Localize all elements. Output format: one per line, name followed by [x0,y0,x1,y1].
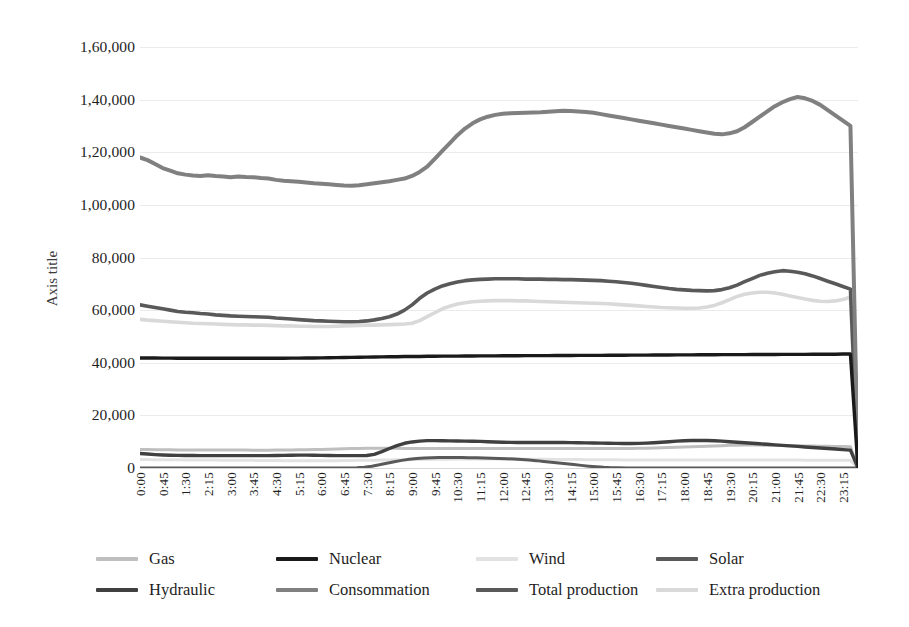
x-axis-tick-label: 18:00 [677,472,693,503]
x-axis-tick-label: 3:00 [224,472,240,496]
legend-swatch-icon [476,588,518,592]
legend-item-consommation[interactable]: Consommation [276,580,476,600]
x-axis-tick-label: 10:30 [450,472,466,503]
y-axis-tick-label: 1,40,000 [5,91,135,109]
x-axis-tick-label: 6:00 [314,472,330,496]
legend-item-gas[interactable]: Gas [96,549,276,569]
y-axis-tick-label: 80,000 [5,249,135,267]
y-axis-tick-label: 1,60,000 [5,38,135,56]
x-axis-tick-labels: 0:000:451:302:153:003:454:305:156:006:45… [140,472,858,534]
x-axis-tick-label: 8:15 [382,472,398,496]
legend-label: Nuclear [329,549,381,569]
x-axis-tick-label: 21:45 [791,472,807,503]
legend-swatch-icon [276,557,318,561]
x-axis-tick-label: 13:30 [541,472,557,503]
x-axis-tick-label: 19:30 [723,472,739,503]
legend-label: Wind [529,549,565,569]
y-axis-tick-label: 20,000 [5,406,135,424]
legend-swatch-icon [96,557,138,561]
x-axis-tick-label: 23:15 [836,472,852,503]
legend-row: GasNuclearWindSolar [96,543,856,574]
legend-label: Solar [709,549,744,569]
chart-legend: GasNuclearWindSolarHydraulicConsommation… [96,543,856,605]
legend-item-hydraulic[interactable]: Hydraulic [96,580,276,600]
legend-swatch-icon [476,557,518,561]
legend-item-nuclear[interactable]: Nuclear [276,549,476,569]
y-axis-tick-label: 1,20,000 [5,143,135,161]
y-axis-tick-label: 1,00,000 [5,196,135,214]
x-axis-tick-label: 9:45 [428,472,444,496]
x-axis-tick-label: 15:45 [609,472,625,503]
legend-swatch-icon [96,588,138,592]
x-axis-tick-label: 0:00 [133,472,149,496]
plot-area [140,47,858,468]
x-axis-tick-label: 4:30 [269,472,285,496]
x-axis-tick-label: 3:45 [246,472,262,496]
legend-swatch-icon [656,557,698,561]
x-axis-tick-label: 9:00 [405,472,421,496]
x-axis-tick-label: 7:30 [360,472,376,496]
series-line-consommation [140,97,858,468]
x-axis-tick-label: 6:45 [337,472,353,496]
legend-label: Consommation [329,580,430,600]
legend-swatch-icon [276,588,318,592]
legend-row: HydraulicConsommationTotal productionExt… [96,574,856,605]
y-axis-tick-labels: 1,60,0001,40,0001,20,0001,00,00080,00060… [0,0,135,520]
x-axis-tick-label: 20:15 [745,472,761,503]
legend-item-wind[interactable]: Wind [476,549,656,569]
legend-label: Extra production [709,580,820,600]
legend-swatch-icon [656,588,698,592]
x-axis-tick-label: 12:00 [496,472,512,503]
legend-item-solar[interactable]: Solar [656,549,744,569]
x-axis-tick-label: 0:45 [156,472,172,496]
x-axis-tick-label: 15:00 [586,472,602,503]
x-axis-tick-label: 2:15 [201,472,217,496]
legend-label: Gas [149,549,175,569]
y-axis-tick-label: 0 [5,459,135,477]
line-chart: Axis title 1,60,0001,40,0001,20,0001,00,… [0,0,909,627]
x-axis-tick-label: 22:30 [813,472,829,503]
legend-label: Hydraulic [149,580,215,600]
series-lines [140,47,858,468]
y-axis-tick-label: 60,000 [5,301,135,319]
legend-label: Total production [529,580,638,600]
x-axis-tick-label: 12:45 [518,472,534,503]
gridline [140,468,858,469]
y-axis-tick-label: 40,000 [5,354,135,372]
legend-item-extra-production[interactable]: Extra production [656,580,820,600]
x-axis-tick-label: 18:45 [700,472,716,503]
x-axis-tick-label: 14:15 [564,472,580,503]
x-axis-tick-label: 5:15 [292,472,308,496]
x-axis-tick-label: 21:00 [768,472,784,503]
x-axis-tick-label: 11:15 [473,472,489,502]
x-axis-tick-label: 17:15 [654,472,670,503]
legend-item-total-production[interactable]: Total production [476,580,656,600]
series-line-hydraulic [140,440,858,468]
x-axis-tick-label: 1:30 [178,472,194,496]
x-axis-tick-label: 16:30 [632,472,648,503]
